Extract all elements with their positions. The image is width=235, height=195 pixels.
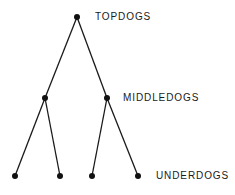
- tree-edges: [15, 17, 138, 176]
- node-mid-right: [104, 95, 110, 101]
- edge-mid-left-to-under-1: [15, 98, 45, 176]
- node-under-4: [135, 173, 141, 179]
- edge-mid-left-to-under-2: [45, 98, 60, 176]
- tree-nodes: [12, 14, 141, 179]
- node-top: [74, 14, 80, 20]
- middledogs-label: MIDDLEDOGS: [123, 93, 199, 103]
- node-under-2: [57, 173, 63, 179]
- hierarchy-tree-diagram: [0, 0, 235, 195]
- edge-mid-right-to-under-4: [107, 98, 138, 176]
- node-under-1: [12, 173, 18, 179]
- underdogs-label: UNDERDOGS: [156, 171, 229, 181]
- node-mid-left: [42, 95, 48, 101]
- topdogs-label: TOPDOGS: [95, 12, 151, 22]
- edge-top-to-mid-left: [45, 17, 77, 98]
- node-under-3: [89, 173, 95, 179]
- edge-top-to-mid-right: [77, 17, 107, 98]
- edge-mid-right-to-under-3: [92, 98, 107, 176]
